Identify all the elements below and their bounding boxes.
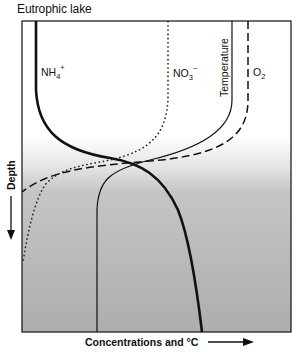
concentration-arrow-icon [208, 338, 254, 346]
x-axis-label: Concentrations and °C [85, 336, 199, 348]
lake-profile-diagram: NH4+ NO3− Temperature O2 Depth Concentra… [0, 0, 296, 352]
depth-axis-label: Depth [5, 160, 17, 190]
depth-arrow-icon [7, 196, 15, 240]
temperature-label: Temperature [218, 38, 230, 97]
